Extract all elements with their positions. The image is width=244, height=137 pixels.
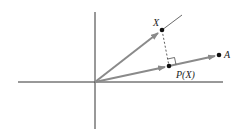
point-px [167, 64, 172, 69]
right-angle-marker [168, 58, 177, 65]
perpendicular-dashed [162, 30, 169, 66]
point-x [160, 28, 165, 33]
point-a [217, 53, 222, 58]
label-x: X [152, 17, 160, 28]
projection-diagram: X A P(X) [0, 0, 244, 137]
x-line-extension [162, 15, 182, 30]
label-px: P(X) [175, 69, 196, 81]
label-a: A [223, 49, 231, 60]
